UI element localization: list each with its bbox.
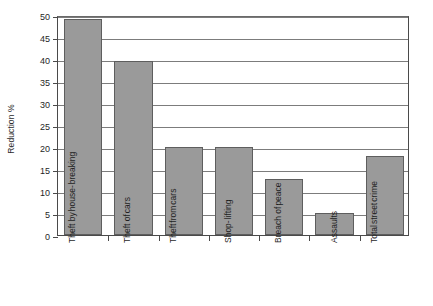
y-axis-tick-label: 20 <box>40 144 50 154</box>
x-axis-label-line: breaking <box>67 151 77 185</box>
bar-slot <box>159 17 209 235</box>
bar[interactable] <box>215 147 253 235</box>
y-axis-tick-label: 5 <box>45 210 50 220</box>
bar[interactable] <box>265 179 303 235</box>
y-axis-tick-label: 0 <box>45 232 50 242</box>
x-axis-label-line: from <box>168 205 178 223</box>
x-axis-tick <box>360 235 361 241</box>
x-axis-label-line: Theft <box>168 223 178 243</box>
x-axis-tick <box>108 235 109 241</box>
bar-slot <box>108 17 158 235</box>
y-axis-tick-label: 10 <box>40 188 50 198</box>
bar-slot <box>360 17 410 235</box>
x-axis-label-line: crime <box>369 180 379 202</box>
x-axis-label-line: Assaults <box>329 210 339 243</box>
y-axis-tick-label: 30 <box>40 100 50 110</box>
x-axis-label-line: street <box>369 202 379 224</box>
x-axis-tick <box>159 235 160 241</box>
bar[interactable] <box>114 61 152 235</box>
x-axis-label-line: Total <box>369 224 379 243</box>
x-axis-label-line: cars <box>122 196 132 213</box>
x-axis-label-line: Shop- <box>223 219 233 243</box>
x-axis-label-line: peace <box>273 181 283 205</box>
x-axis-label-line: house- <box>67 184 77 211</box>
y-axis-tick <box>53 237 58 238</box>
y-axis-title-text: Reduction % <box>6 74 16 184</box>
bar-slot <box>209 17 259 235</box>
x-axis-label-line: Theft by <box>67 211 77 243</box>
y-axis-tick-label: 35 <box>40 78 50 88</box>
y-axis-title: Reduction % <box>6 0 20 74</box>
bar-slot <box>309 17 359 235</box>
x-axis-tick <box>309 235 310 241</box>
plot-area: 05101520253035404550 <box>57 16 409 236</box>
x-axis-tick <box>259 235 260 241</box>
bar-chart-figure: Reduction % 05101520253035404550 Theft b… <box>0 0 433 306</box>
y-axis-tick-label: 25 <box>40 122 50 132</box>
y-axis-tick-label: 50 <box>40 12 50 22</box>
x-axis-tick <box>209 235 210 241</box>
bar-slot <box>259 17 309 235</box>
bar-slot <box>58 17 108 235</box>
y-axis-tick-label: 45 <box>40 34 50 44</box>
y-axis-tick-label: 40 <box>40 56 50 66</box>
y-axis-tick-label: 15 <box>40 166 50 176</box>
x-axis-label-line: cars <box>168 188 178 205</box>
x-axis-label-line: lifting <box>223 198 233 219</box>
x-axis-label-line: Theft of <box>122 213 132 243</box>
x-axis-label-line: Breach of <box>273 206 283 243</box>
bars-group <box>58 17 408 235</box>
